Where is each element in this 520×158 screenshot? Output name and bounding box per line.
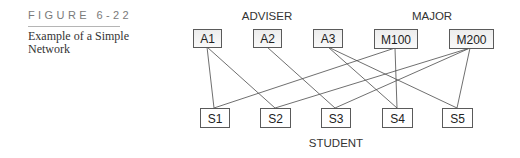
node-m200-label: M200	[456, 33, 486, 47]
node-a1: A1	[194, 30, 222, 48]
network-diagram: ADVISER MAJOR STUDENT A1 A2 A3 M100 M200…	[0, 0, 520, 158]
edge-a3-s4	[328, 47, 397, 108]
node-s4-label: S4	[390, 112, 405, 126]
node-s5-label: S5	[450, 112, 465, 126]
edge-m200-s5	[457, 48, 470, 108]
edges	[207, 47, 470, 108]
node-a3-label: A3	[321, 32, 336, 46]
node-a3: A3	[314, 30, 343, 48]
node-s3: S3	[322, 109, 351, 128]
node-a2: A2	[254, 30, 282, 48]
edge-a1-s1	[207, 47, 214, 108]
edge-m200-s3	[335, 48, 470, 108]
node-a2-label: A2	[260, 32, 275, 46]
edge-m100-s4	[395, 48, 397, 108]
node-s2-label: S2	[268, 112, 283, 126]
node-s4: S4	[383, 109, 413, 128]
major-label: MAJOR	[412, 10, 452, 22]
node-s3-label: S3	[329, 112, 344, 126]
node-s1: S1	[201, 109, 230, 128]
edge-a3-s5	[328, 47, 457, 108]
node-m100-label: M100	[381, 33, 411, 47]
node-m200: M200	[450, 30, 494, 49]
node-s2: S2	[261, 109, 291, 128]
node-a1-label: A1	[200, 32, 215, 46]
edge-a2-s3	[267, 47, 335, 108]
student-label: STUDENT	[309, 137, 363, 149]
adviser-label: ADVISER	[242, 10, 293, 22]
node-s1-label: S1	[208, 112, 223, 126]
node-s5: S5	[443, 109, 473, 128]
node-m100: M100	[375, 30, 418, 49]
